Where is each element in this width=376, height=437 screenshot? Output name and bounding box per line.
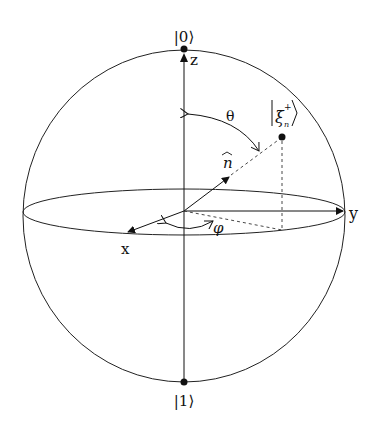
n-vector-line — [184, 177, 229, 211]
state-superscript: + — [284, 102, 292, 112]
state-ket-label: ξ + n — [272, 100, 297, 129]
z-axis-arrowhead — [180, 53, 188, 62]
x-axis-label: x — [121, 240, 130, 258]
ket-one-label: |1⟩ — [174, 392, 194, 410]
y-axis-label: y — [348, 204, 358, 223]
z-axis-label: z — [190, 51, 198, 69]
n-hat-label: n — [223, 154, 233, 172]
phi-label: φ — [213, 219, 224, 237]
bloch-sphere-diagram: |0⟩ z x y n θ φ ξ + n |1⟩ — [0, 0, 376, 437]
ket-zero-label: |0⟩ — [174, 28, 194, 46]
x-axis-line — [128, 211, 184, 232]
state-point-dot — [279, 134, 286, 141]
state-subscript: n — [284, 120, 289, 129]
north-pole-dot — [181, 46, 188, 53]
state-dashed-line — [231, 138, 281, 175]
theta-label: θ — [226, 108, 234, 124]
phi-arc — [166, 221, 213, 229]
south-pole-dot — [181, 379, 188, 386]
theta-arc — [188, 114, 259, 151]
